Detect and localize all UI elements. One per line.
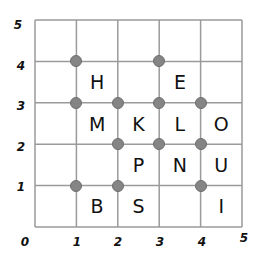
y-axis-label-2: 2 (17, 140, 25, 154)
grid-point (195, 138, 207, 150)
y-axis-label-4: 4 (17, 59, 25, 73)
cell-letter: B (91, 195, 104, 217)
x-axis-label-2: 2 (114, 235, 122, 249)
cell-letter: M (89, 113, 105, 135)
cell-letter: L (175, 113, 186, 135)
cell-letter: N (173, 154, 187, 176)
cell-letter: K (132, 113, 144, 135)
grid-point (153, 55, 165, 67)
cell-letter: I (218, 195, 224, 217)
cell-letter: H (90, 71, 104, 93)
grid-point (70, 97, 82, 109)
x-axis-label-3: 3 (156, 235, 164, 249)
grid-point (70, 55, 82, 67)
x-axis-label-4: 4 (198, 235, 206, 249)
cell-letter: S (132, 195, 144, 217)
y-axis-label-3: 3 (17, 99, 25, 113)
grid-point (70, 180, 82, 192)
cell-letter: U (214, 154, 228, 176)
grid-point (153, 97, 165, 109)
grid-point (112, 180, 124, 192)
grid-point (153, 138, 165, 150)
cell-letter: O (214, 113, 229, 135)
cell-letter: E (174, 71, 186, 93)
y-axis-label-5: 5 (14, 18, 22, 32)
cell-letter: P (133, 154, 144, 176)
grid-point (195, 97, 207, 109)
x-axis-label-1: 1 (73, 235, 81, 249)
grid-point (112, 97, 124, 109)
grid-point (195, 180, 207, 192)
y-axis-label-1: 1 (17, 180, 25, 194)
grid-point (112, 138, 124, 150)
x-axis-label-5: 5 (240, 231, 248, 245)
x-axis-label-0: 0 (21, 235, 29, 249)
